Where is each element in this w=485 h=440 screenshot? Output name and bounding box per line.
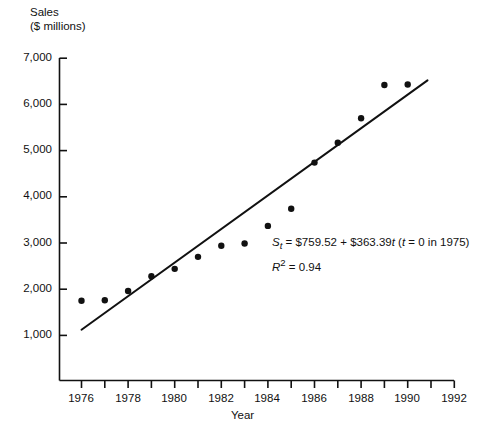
r-squared-value: = 0.94: [286, 261, 322, 273]
y-tick-marks: [60, 58, 68, 335]
x-tick-label: 1988: [338, 392, 384, 404]
data-point: [195, 254, 201, 260]
regression-annotation: St = $759.52 + $363.39t (t = 0 in 1975) …: [272, 234, 469, 276]
y-tick-label: 6,000: [8, 97, 52, 109]
x-tick-label: 1990: [384, 392, 430, 404]
x-tick-label: 1992: [431, 392, 477, 404]
regression-trendline: [82, 80, 428, 329]
r-squared-line: R2 = 0.94: [272, 254, 469, 276]
data-point: [78, 298, 84, 304]
equation-paren-open: (: [395, 236, 402, 248]
data-point: [172, 266, 178, 272]
x-tick-label: 1976: [58, 392, 104, 404]
data-point: [148, 273, 154, 279]
y-tick-label: 2,000: [8, 282, 52, 294]
data-point: [311, 159, 317, 165]
data-point: [265, 223, 271, 229]
data-point: [125, 288, 131, 294]
plot-area: [0, 0, 485, 440]
chart-figure: Sales ($ millions): [0, 0, 485, 440]
x-tick-label: 1982: [198, 392, 244, 404]
data-point: [335, 140, 341, 146]
y-tick-label: 5,000: [8, 143, 52, 155]
data-point: [358, 115, 364, 121]
x-tick-label: 1986: [291, 392, 337, 404]
x-tick-label: 1978: [105, 392, 151, 404]
data-point: [405, 81, 411, 87]
data-point: [102, 297, 108, 303]
y-tick-label: 3,000: [8, 236, 52, 248]
data-point: [241, 240, 247, 246]
data-point: [218, 243, 224, 249]
y-tick-label: 1,000: [8, 328, 52, 340]
regression-equation: St = $759.52 + $363.39t (t = 0 in 1975): [272, 234, 469, 254]
y-tick-label: 4,000: [8, 189, 52, 201]
x-axis-title: Year: [0, 408, 485, 422]
x-tick-label: 1984: [244, 392, 290, 404]
y-tick-label: 7,000: [8, 51, 52, 63]
data-point: [288, 206, 294, 212]
equation-s-symbol: S: [272, 236, 280, 248]
data-point: [381, 82, 387, 88]
x-tick-marks: [82, 381, 455, 389]
equation-body-2: = 0 in 1975): [405, 236, 469, 248]
equation-body-1: = $759.52 + $363.39: [282, 236, 391, 248]
x-tick-label: 1980: [151, 392, 197, 404]
